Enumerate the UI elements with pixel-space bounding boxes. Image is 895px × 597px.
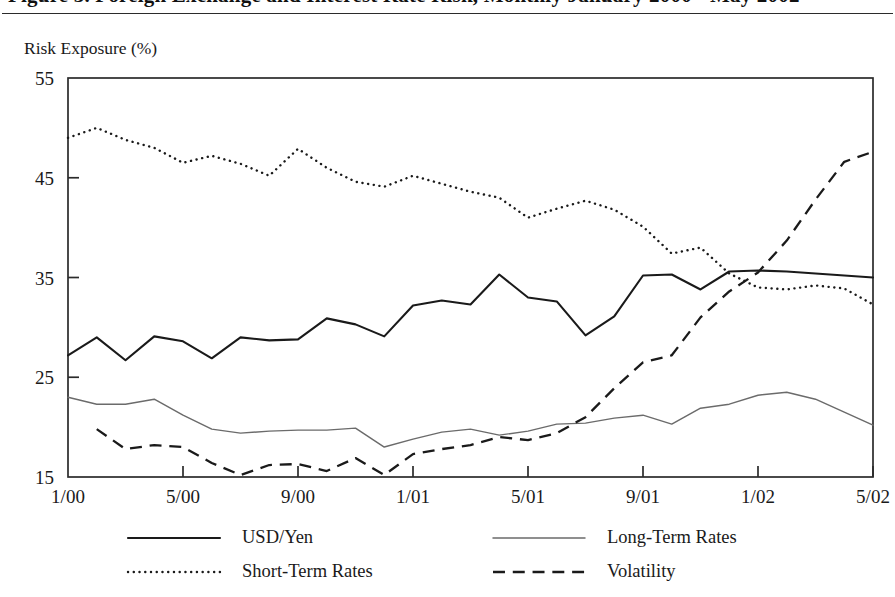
legend-label-usd-yen: USD/Yen	[242, 527, 313, 547]
legend-label-short-term-rates: Short-Term Rates	[242, 561, 373, 581]
y-axis-tick-label: 15	[35, 467, 54, 488]
x-axis-tick-label: 5/02	[856, 486, 890, 507]
series-line-usd-yen	[68, 271, 873, 361]
series-line-short-term-rates	[68, 128, 873, 305]
x-axis-tick-label: 5/00	[166, 486, 200, 507]
risk-exposure-line-chart: 15253545551/005/009/001/015/019/011/025/…	[0, 0, 895, 597]
series-line-volatility	[97, 152, 873, 475]
y-axis-tick-label: 25	[35, 367, 54, 388]
x-axis-tick-label: 1/00	[51, 486, 85, 507]
y-axis-tick-label: 35	[35, 268, 54, 289]
series-line-long-term-rates	[68, 392, 873, 447]
x-axis-tick-label: 9/00	[281, 486, 315, 507]
x-axis-tick-label: 1/01	[396, 486, 430, 507]
x-axis-tick-label: 9/01	[626, 486, 660, 507]
y-axis-tick-label: 45	[35, 168, 54, 189]
x-axis-tick-label: 5/01	[511, 486, 545, 507]
legend-label-long-term-rates: Long-Term Rates	[607, 527, 737, 547]
chart-plot-area: 15253545551/005/009/001/015/019/011/025/…	[0, 0, 895, 597]
x-axis-tick-label: 1/02	[741, 486, 775, 507]
legend-label-volatility: Volatility	[607, 561, 676, 581]
y-axis-tick-label: 55	[35, 68, 54, 89]
